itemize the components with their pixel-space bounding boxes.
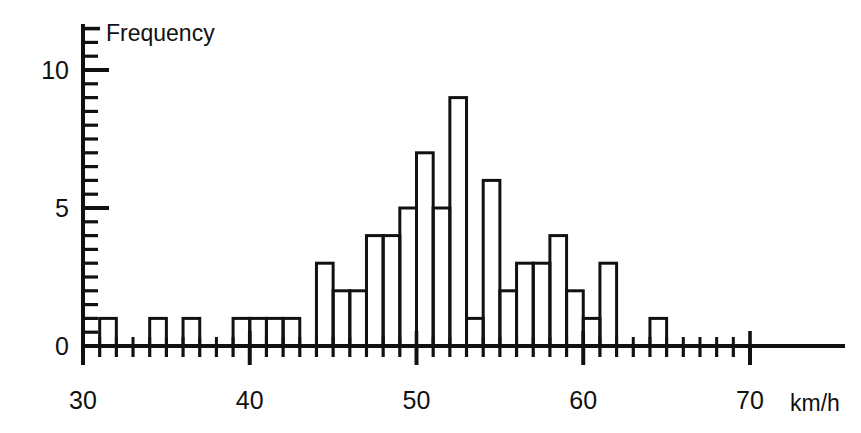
y-tick-label: 5 <box>55 194 69 222</box>
y-axis-title: Frequency <box>106 20 215 46</box>
x-tick-label: 30 <box>69 386 97 414</box>
x-tick-label: 50 <box>403 386 431 414</box>
x-tick-label: 40 <box>236 386 264 414</box>
y-tick-label: 0 <box>55 332 69 360</box>
y-tick-label: 10 <box>41 56 69 84</box>
figure-background <box>0 0 861 433</box>
chart-canvas: 0510 3040506070 Frequency km/h <box>0 0 861 433</box>
x-axis-unit-label: km/h <box>790 390 840 416</box>
x-tick-label: 60 <box>569 386 597 414</box>
x-tick-label: 70 <box>736 386 764 414</box>
histogram-figure: 0510 3040506070 Frequency km/h <box>0 0 861 433</box>
